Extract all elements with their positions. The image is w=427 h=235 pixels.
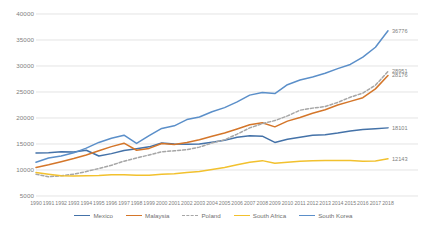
legend-swatch-icon — [234, 215, 250, 216]
legend-swatch-icon — [74, 215, 90, 216]
y-axis-tick-label: 35000 — [0, 36, 34, 43]
x-axis-tick-label: 1993 — [68, 200, 80, 206]
legend-item-south-africa[interactable]: South Africa — [234, 212, 286, 219]
series-lines — [36, 31, 388, 177]
x-axis-tick-label: 2010 — [282, 200, 294, 206]
x-axis-tick-label: 2017 — [370, 200, 382, 206]
line-chart: 500010000150002000025000300003500040000 … — [0, 0, 427, 235]
legend-item-mexico[interactable]: Mexico — [74, 212, 113, 219]
x-axis-tick-label: 2015 — [345, 200, 357, 206]
x-axis-tick-label: 2016 — [357, 200, 369, 206]
series-line-south-africa — [36, 159, 388, 176]
end-label-south-korea: 36776 — [392, 28, 408, 34]
y-axis-tick-label: 15000 — [0, 140, 34, 147]
x-axis-tick-label: 2009 — [269, 200, 281, 206]
end-label-south-africa: 12143 — [392, 156, 408, 162]
x-axis-tick-label: 1997 — [118, 200, 130, 206]
series-line-malaysia — [36, 75, 388, 167]
x-axis-tick-label: 1996 — [106, 200, 118, 206]
x-axis-tick-label: 1999 — [143, 200, 155, 206]
x-axis-tick-label: 2006 — [231, 200, 243, 206]
x-axis-tick-label: 2013 — [319, 200, 331, 206]
legend-label: Mexico — [93, 212, 113, 219]
x-axis-tick-label: 2014 — [332, 200, 344, 206]
legend-label: Poland — [201, 212, 220, 219]
x-axis-tick-label: 1991 — [43, 200, 55, 206]
y-axis-tick-label: 20000 — [0, 114, 34, 121]
x-axis-tick-label: 1992 — [55, 200, 67, 206]
y-axis-tick-label: 10000 — [0, 166, 34, 173]
x-axis-tick-label: 2008 — [257, 200, 269, 206]
y-axis-tick-label: 25000 — [0, 88, 34, 95]
chart-legend: MexicoMalaysiaPolandSouth AfricaSouth Ko… — [0, 212, 427, 219]
x-axis-tick-label: 2003 — [194, 200, 206, 206]
legend-label: Malaysia — [145, 212, 169, 219]
legend-item-south-korea[interactable]: South Korea — [299, 212, 352, 219]
legend-label: South Korea — [318, 212, 352, 219]
legend-swatch-icon — [182, 215, 198, 216]
x-axis-tick-label: 2000 — [156, 200, 168, 206]
legend-label: South Africa — [253, 212, 286, 219]
x-axis-tick-label: 1994 — [81, 200, 93, 206]
x-axis-tick-label: 1990 — [30, 200, 42, 206]
x-axis-tick-label: 2007 — [244, 200, 256, 206]
legend-swatch-icon — [126, 215, 142, 216]
y-axis-tick-label: 30000 — [0, 62, 34, 69]
x-axis-tick-label: 1998 — [131, 200, 143, 206]
x-axis-tick-label: 2018 — [382, 200, 394, 206]
x-axis-tick-label: 2005 — [219, 200, 231, 206]
legend-swatch-icon — [299, 215, 315, 216]
x-axis-tick-label: 2004 — [206, 200, 218, 206]
y-axis-tick-label: 40000 — [0, 10, 34, 17]
series-line-mexico — [36, 128, 388, 156]
x-axis-tick-label: 2012 — [307, 200, 319, 206]
x-axis-tick-label: 1995 — [93, 200, 105, 206]
gridlines — [36, 14, 418, 196]
x-axis-tick-label: 2001 — [169, 200, 181, 206]
end-label-mexico: 18101 — [392, 125, 408, 131]
end-label-poland: 28951 — [392, 68, 408, 74]
legend-item-malaysia[interactable]: Malaysia — [126, 212, 169, 219]
x-axis-tick-label: 2002 — [181, 200, 193, 206]
x-axis-tick-label: 2011 — [294, 200, 305, 206]
legend-item-poland[interactable]: Poland — [182, 212, 220, 219]
y-axis-tick-label: 5000 — [0, 192, 34, 199]
